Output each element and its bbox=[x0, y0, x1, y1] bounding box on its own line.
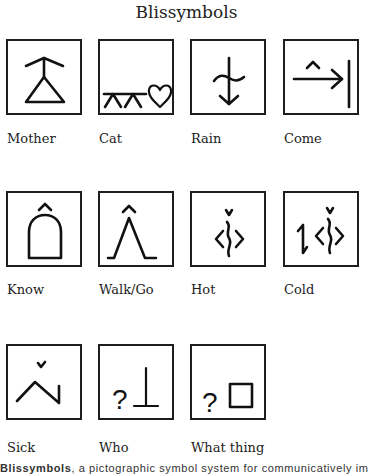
symbol-box bbox=[190, 39, 266, 115]
symbol-box bbox=[98, 39, 174, 115]
caption-term: Blissymbols bbox=[0, 462, 71, 474]
question-mark-glyph: ? bbox=[202, 387, 218, 418]
symbol-box: ? bbox=[190, 344, 266, 420]
symbol-card-come: Come bbox=[283, 39, 359, 115]
symbol-box bbox=[283, 39, 359, 115]
symbol-label: Come bbox=[284, 131, 322, 146]
symbol-label: Who bbox=[99, 440, 129, 455]
symbol-card-know: Know bbox=[6, 191, 82, 267]
symbol-box: ? bbox=[98, 344, 174, 420]
symbol-card-what-thing: ? What thing bbox=[190, 344, 266, 420]
symbol-label: What thing bbox=[191, 440, 264, 455]
symbol-label: Walk/Go bbox=[99, 282, 154, 297]
figure-title: Blissymbols bbox=[0, 2, 373, 22]
hot-symbol-icon bbox=[192, 193, 264, 265]
rain-symbol-icon bbox=[192, 41, 264, 113]
caption-text: , a pictographic symbol system for commu… bbox=[71, 462, 368, 474]
symbol-card-mother: Mother bbox=[6, 39, 82, 115]
come-symbol-icon bbox=[285, 41, 357, 113]
question-mark-glyph: ? bbox=[112, 384, 128, 415]
symbol-label: Mother bbox=[7, 131, 56, 146]
symbol-box bbox=[190, 191, 266, 267]
symbol-label: Cold bbox=[284, 282, 314, 297]
walk-go-symbol-icon bbox=[100, 193, 172, 265]
symbol-card-who: ? Who bbox=[98, 344, 174, 420]
symbol-box bbox=[6, 39, 82, 115]
symbol-label: Hot bbox=[191, 282, 215, 297]
symbol-box bbox=[283, 191, 359, 267]
sick-symbol-icon bbox=[8, 346, 80, 418]
symbol-label: Know bbox=[7, 282, 44, 297]
symbol-card-cat: Cat bbox=[98, 39, 174, 115]
symbol-card-sick: Sick bbox=[6, 344, 82, 420]
know-symbol-icon bbox=[8, 193, 80, 265]
cat-symbol-icon bbox=[100, 41, 172, 113]
symbol-label: Sick bbox=[7, 440, 35, 455]
symbol-card-hot: Hot bbox=[190, 191, 266, 267]
cold-symbol-icon bbox=[285, 193, 357, 265]
figure-caption: Blissymbols, a pictographic symbol syste… bbox=[0, 462, 369, 474]
who-symbol-icon: ? bbox=[100, 346, 172, 418]
what-thing-symbol-icon: ? bbox=[192, 346, 264, 418]
symbol-card-rain: Rain bbox=[190, 39, 266, 115]
symbol-label: Cat bbox=[99, 131, 122, 146]
symbol-card-walk-go: Walk/Go bbox=[98, 191, 174, 267]
symbol-label: Rain bbox=[191, 131, 221, 146]
symbol-card-cold: Cold bbox=[283, 191, 359, 267]
symbol-box bbox=[6, 344, 82, 420]
symbol-box bbox=[98, 191, 174, 267]
symbol-box bbox=[6, 191, 82, 267]
mother-symbol-icon bbox=[8, 41, 80, 113]
